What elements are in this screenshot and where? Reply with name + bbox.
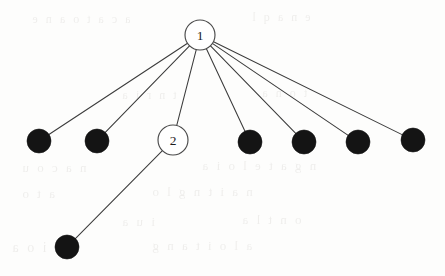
graph-node-filled xyxy=(238,130,262,154)
graph-node-filled xyxy=(401,128,425,152)
graph-edge xyxy=(210,45,297,134)
graph-edge xyxy=(74,150,163,240)
graph-edge xyxy=(213,41,404,135)
graph-edge xyxy=(176,49,196,127)
graph-node-labeled: 2 xyxy=(158,125,188,155)
graph-edge xyxy=(48,43,189,136)
graph-node-filled xyxy=(292,130,316,154)
node-circle-filled xyxy=(292,130,316,154)
graph-edge xyxy=(206,48,246,133)
node-circle-filled xyxy=(27,129,51,153)
node-label: 2 xyxy=(170,133,177,148)
node-circle-filled xyxy=(85,129,109,153)
graph-node-filled xyxy=(85,129,109,153)
graph-node-filled xyxy=(346,130,370,154)
node-circle-filled xyxy=(401,128,425,152)
graph-node-filled xyxy=(55,235,79,259)
node-circle-filled xyxy=(238,130,262,154)
figure-page: a c a t o a n ee n a q lt n r i at o n a… xyxy=(0,0,445,276)
node-label: 1 xyxy=(197,28,204,43)
node-circle-filled xyxy=(346,130,370,154)
graph-node-labeled: 1 xyxy=(185,20,215,50)
node-circle-filled xyxy=(55,235,79,259)
graph-nodes: 12 xyxy=(27,20,425,259)
graph-figure: 12 xyxy=(0,0,445,276)
graph-edge xyxy=(212,43,350,136)
graph-node-filled xyxy=(27,129,51,153)
